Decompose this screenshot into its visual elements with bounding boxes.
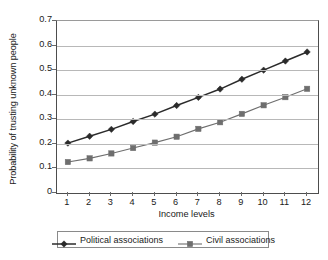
- x-tick-label: 8: [208, 197, 230, 207]
- square-marker: [130, 145, 135, 150]
- legend-label: Civil associations: [206, 235, 275, 245]
- gridline: [57, 119, 318, 120]
- legend-diamond-icon: [51, 235, 77, 245]
- gridline: [57, 70, 318, 71]
- y-tick-mark: [52, 69, 56, 70]
- series-layer: [57, 21, 318, 193]
- legend-entry: Political associations: [51, 235, 163, 245]
- x-tick-label: 6: [165, 197, 187, 207]
- y-tick-label: 0.3: [24, 113, 52, 122]
- x-tick-mark: [219, 192, 220, 196]
- x-tick-label: 9: [230, 197, 252, 207]
- x-tick-label: 7: [186, 197, 208, 207]
- y-tick-label: 0.2: [24, 138, 52, 147]
- x-tick-label: 4: [121, 197, 143, 207]
- legend-label: Political associations: [80, 235, 163, 245]
- plot-area: [56, 20, 319, 194]
- x-tick-mark: [284, 192, 285, 196]
- diamond-marker: [152, 111, 158, 117]
- square-marker: [174, 134, 179, 139]
- diamond-marker: [217, 86, 223, 92]
- x-tick-mark: [241, 192, 242, 196]
- x-tick-label: 3: [99, 197, 121, 207]
- diamond-marker: [304, 49, 310, 55]
- x-tick-mark: [176, 192, 177, 196]
- x-axis-title: Income levels: [56, 209, 317, 219]
- square-marker: [109, 151, 114, 156]
- x-tick-mark: [197, 192, 198, 196]
- gridline: [57, 168, 318, 169]
- y-tick-label: 0: [24, 187, 52, 196]
- y-tick-label: 0.7: [24, 15, 52, 24]
- diamond-marker: [86, 133, 92, 139]
- x-tick-label: 2: [78, 197, 100, 207]
- diamond-marker: [61, 240, 67, 246]
- square-marker: [261, 103, 266, 108]
- x-tick-mark: [110, 192, 111, 196]
- square-marker: [304, 86, 309, 91]
- y-axis-title: Probability of trusting unknown people: [8, 14, 18, 204]
- y-tick-label: 0.1: [24, 162, 52, 171]
- series-line: [68, 52, 307, 143]
- x-tick-mark: [306, 192, 307, 196]
- chart-figure: Probability of trusting unknown people 0…: [0, 0, 328, 260]
- square-marker: [196, 126, 201, 131]
- diamond-marker: [239, 76, 245, 82]
- x-tick-label: 1: [56, 197, 78, 207]
- y-tick-mark: [52, 143, 56, 144]
- x-tick-mark: [263, 192, 264, 196]
- legend-entry: Civil associations: [177, 235, 275, 245]
- square-marker: [65, 159, 70, 164]
- y-tick-mark: [52, 20, 56, 21]
- y-axis-tick-labels: 0.70.60.50.40.30.20.10: [22, 0, 52, 260]
- x-tick-label: 11: [273, 197, 295, 207]
- legend-square-icon: [177, 235, 203, 245]
- y-tick-label: 0.5: [24, 64, 52, 73]
- x-tick-mark: [154, 192, 155, 196]
- y-tick-mark: [52, 167, 56, 168]
- diamond-marker: [173, 102, 179, 108]
- series-line: [68, 89, 307, 162]
- gridline: [57, 144, 318, 145]
- diamond-marker: [108, 126, 114, 132]
- x-tick-mark: [89, 192, 90, 196]
- y-tick-mark: [52, 192, 56, 193]
- square-marker: [87, 156, 92, 161]
- chart-legend: Political associationsCivil associations: [57, 231, 269, 248]
- x-tick-label: 12: [295, 197, 317, 207]
- series-1: [65, 49, 311, 147]
- gridline: [57, 46, 318, 47]
- series-2: [65, 86, 310, 165]
- y-tick-mark: [52, 94, 56, 95]
- diamond-marker: [282, 58, 288, 64]
- y-tick-label: 0.4: [24, 89, 52, 98]
- x-tick-mark: [132, 192, 133, 196]
- y-tick-mark: [52, 45, 56, 46]
- square-marker: [239, 111, 244, 116]
- y-tick-mark: [52, 118, 56, 119]
- y-tick-label: 0.6: [24, 40, 52, 49]
- square-marker: [187, 241, 192, 246]
- square-marker: [217, 120, 222, 125]
- x-tick-label: 5: [143, 197, 165, 207]
- x-tick-label: 10: [252, 197, 274, 207]
- x-tick-mark: [67, 192, 68, 196]
- gridline: [57, 95, 318, 96]
